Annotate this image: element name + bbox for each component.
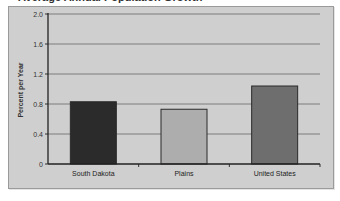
y-tick-label: 1.2 xyxy=(33,71,43,78)
y-tick-label: 1.6 xyxy=(33,41,43,48)
bar-plains xyxy=(161,109,207,164)
bar-united-states xyxy=(252,86,298,164)
y-tick-label: 0 xyxy=(39,161,43,168)
x-tick-label: United States xyxy=(254,170,297,177)
bar-south-dakota xyxy=(70,102,116,164)
y-tick-label: 0.8 xyxy=(33,101,43,108)
x-tick-label: South Dakota xyxy=(72,170,115,177)
bar-chart: 00.40.81.21.62.0South DakotaPlainsUnited… xyxy=(0,0,340,201)
y-tick-label: 0.4 xyxy=(33,131,43,138)
y-tick-label: 2.0 xyxy=(33,11,43,18)
x-tick-label: Plains xyxy=(174,170,194,177)
